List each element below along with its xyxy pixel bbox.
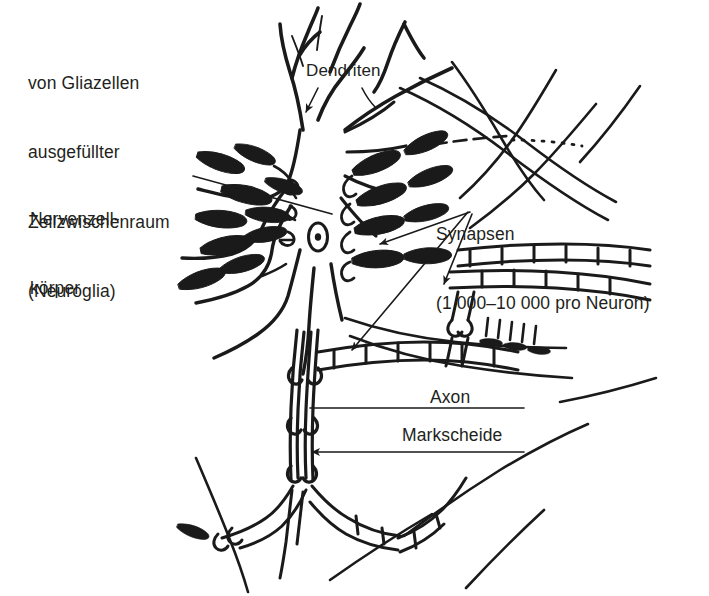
axon-myelinated: [287, 330, 321, 482]
label-markscheide: Markscheide: [402, 424, 502, 447]
label-nervenzellkoerper-line1: Nervenzell-: [30, 208, 120, 231]
dotted-glia-fiber: [512, 140, 582, 146]
label-nervenzellkoerper-line2: körper: [30, 277, 120, 300]
nucleus: [309, 223, 328, 251]
leader-dendriten-left: [306, 88, 318, 112]
synaptic-boutons-left: [176, 139, 304, 294]
label-neuroglia-line1: von Gliazellen: [28, 72, 170, 95]
axon-terminal-bouton: [175, 520, 210, 542]
label-nervenzellkoerper: Nervenzell- körper: [30, 162, 120, 347]
label-synapsen: Synapsen (1 000–10 000 pro Neuron): [436, 177, 650, 362]
label-synapsen-line1: Synapsen: [436, 223, 650, 246]
label-synapsen-line2: (1 000–10 000 pro Neuron): [436, 292, 650, 315]
label-axon: Axon: [430, 386, 470, 409]
axon-terminal-branches: [214, 478, 466, 578]
neuron-diagram-figure: von Gliazellen ausgefüllter Zellzwischen…: [0, 0, 709, 596]
label-dendriten: Dendriten: [306, 60, 381, 82]
